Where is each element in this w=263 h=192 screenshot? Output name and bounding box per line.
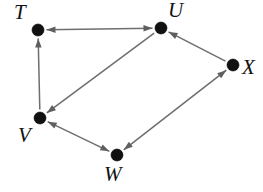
graph-canvas [0,0,263,192]
graph-node-t[interactable] [32,24,44,36]
edge-t-u [46,28,152,30]
graph-node-v[interactable] [34,112,46,124]
edge-x-u [169,32,226,61]
graph-node-u[interactable] [155,22,167,34]
directed-graph-figure: TUVWX [0,0,263,192]
edge-x-u-arrowhead-u [169,32,178,39]
edge-u-v [47,33,154,113]
graph-node-x[interactable] [227,59,239,71]
node-label-w: W [104,164,122,185]
node-label-u: U [168,0,183,21]
edge-v-t-arrowhead-t [35,38,41,47]
edges-layer [35,25,226,151]
edge-t-u-arrowhead-u [143,25,152,31]
edge-v-t [38,38,40,109]
graph-node-w[interactable] [111,149,123,161]
node-label-x: X [242,57,255,78]
edge-w-x [124,70,227,150]
edge-v-w [48,122,110,152]
node-label-t: T [14,2,26,23]
edge-v-w-arrowhead-v [48,122,58,129]
edge-t-u-arrowhead-t [46,26,55,32]
edge-v-w-arrowhead-w [100,144,110,151]
edge-u-v-arrowhead-v [47,105,56,113]
node-label-v: V [18,125,31,146]
